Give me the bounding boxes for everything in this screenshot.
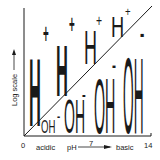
ph-log-scale-diagram: H + H + H + H + OH - OH - OH - OH - Log … <box>0 0 160 160</box>
oh-ion-4-charge: - <box>140 19 144 47</box>
oh-ion-3-charge: - <box>112 54 116 77</box>
x-right-label: basic <box>116 143 134 152</box>
oh-ion-1-charge: - <box>57 110 61 123</box>
h-ion-4-charge: + <box>125 5 131 19</box>
h-ion-1-charge: + <box>43 18 49 49</box>
h-ion-2-charge: + <box>69 11 75 39</box>
oh-ion-1: OH <box>41 117 55 137</box>
h-ion-1: H <box>29 40 41 147</box>
x-axis-label: pH <box>67 143 77 152</box>
x-max-label: 14 <box>144 141 152 150</box>
x-min-label: 0 <box>21 141 25 150</box>
y-axis-label-group: Log scale <box>10 49 19 106</box>
oh-ion-4: OH <box>123 35 144 156</box>
up-arrow-icon <box>12 49 16 55</box>
x-left-label: acidic <box>36 143 55 152</box>
oh-ion-2-charge: - <box>82 85 86 104</box>
h-ion-3-charge: + <box>96 10 102 29</box>
y-axis-label: Log scale <box>10 74 19 106</box>
